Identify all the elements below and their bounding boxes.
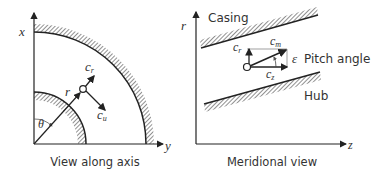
pitch-angle-label: Pitch angle bbox=[304, 52, 370, 66]
cr-arrow bbox=[85, 76, 94, 87]
cm-label: cm bbox=[270, 34, 281, 49]
hub-wall bbox=[204, 72, 320, 104]
fluid-particle bbox=[80, 86, 87, 93]
cr-label: cr bbox=[85, 59, 95, 75]
fluid-particle bbox=[244, 64, 251, 71]
pitch-angle-arc bbox=[274, 57, 276, 67]
epsilon-symbol: ε bbox=[292, 51, 298, 66]
cm-arrow bbox=[250, 50, 286, 66]
cz-label: cz bbox=[266, 67, 275, 82]
radius-label: r bbox=[65, 84, 71, 99]
y-axis-label: y bbox=[163, 138, 171, 153]
view-along-axis-panel: x y r θ cr cu View along axis bbox=[18, 13, 171, 169]
z-axis-label: z bbox=[347, 138, 353, 152]
cr-label: cr bbox=[233, 40, 242, 55]
r-axis-label: r bbox=[181, 18, 187, 33]
right-caption: Meridional view bbox=[227, 155, 317, 169]
x-axis-label: x bbox=[18, 24, 25, 39]
left-caption: View along axis bbox=[50, 155, 140, 169]
hub-label: Hub bbox=[304, 89, 328, 103]
casing-wall bbox=[34, 32, 146, 144]
theta-label: θ bbox=[38, 117, 44, 131]
diagram-canvas: x y r θ cr cu View along axis Casing Hub… bbox=[0, 0, 384, 178]
meridional-view-panel: Casing Hub r z cr cm cz ε Pitch angle Me… bbox=[181, 7, 370, 169]
casing-label: Casing bbox=[208, 11, 249, 25]
